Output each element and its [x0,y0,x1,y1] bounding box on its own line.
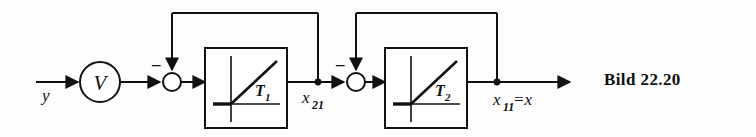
sum-1-minus-sign: – [151,55,161,74]
sum-1-circle[interactable] [163,73,181,91]
sum-2-minus-sign: – [335,55,345,74]
block-t1-frame[interactable] [205,48,287,128]
block-t2[interactable]: T 2 [385,48,467,128]
amplifier-v[interactable]: V [80,62,120,102]
input-signal-label: y [40,86,50,105]
x21-label-subscript: 21 [311,98,324,112]
sum-2-circle[interactable] [347,73,365,91]
amplifier-label: V [94,71,109,95]
sum-1[interactable]: – [151,55,181,91]
input-branch: y [36,82,78,105]
sum-2[interactable]: – [335,55,365,91]
block-t2-label-subscript: 2 [444,91,451,103]
output-label-equality: =x [513,90,532,109]
output-label: x [492,90,501,109]
block-t1-label-subscript: 1 [265,91,271,103]
x21-label: x [301,88,310,107]
figure-caption: Bild 22.20 [604,70,681,90]
figure-root: y V – T 1 x [0,0,756,137]
block-t1[interactable]: T 1 [205,48,287,128]
block-t2-frame[interactable] [385,48,467,128]
block-diagram: y V – T 1 x [0,0,756,137]
